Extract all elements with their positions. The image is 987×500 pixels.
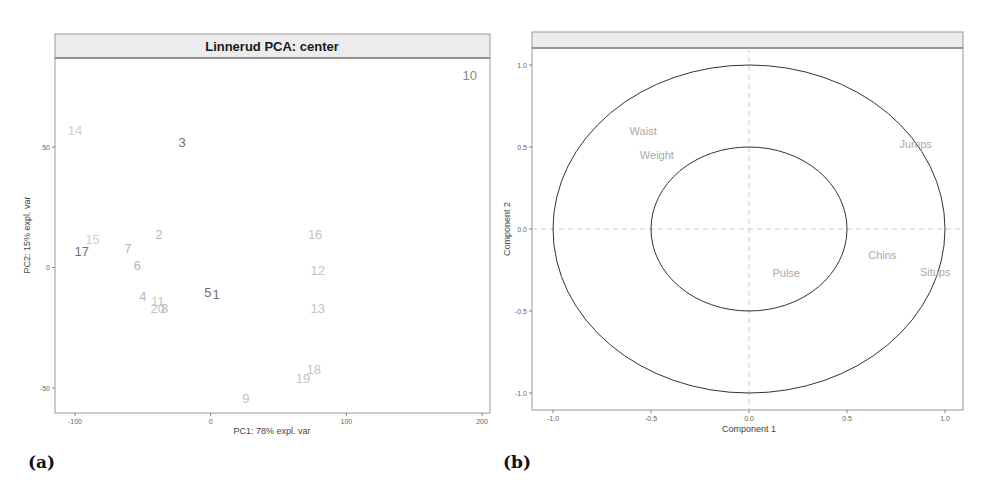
panel-a: Linnerud PCA: center -1000100200 -50050 … xyxy=(22,34,490,472)
observation-label-17: 17 xyxy=(75,244,89,259)
panel-a-x-tick-label: 100 xyxy=(340,418,352,425)
observation-label-13: 13 xyxy=(311,301,325,316)
panel-b-x-tick-label: -1.0 xyxy=(547,415,559,422)
observation-label-12: 12 xyxy=(311,263,325,278)
observation-label-20: 20 xyxy=(151,301,165,316)
variable-label-waist: Waist xyxy=(630,125,657,137)
panel-b-y-tick-label: 1.0 xyxy=(517,62,527,69)
panel-b-x-tick-label: 0.0 xyxy=(744,415,754,422)
panel-b-x-tick-label: -0.5 xyxy=(645,415,657,422)
panel-b-strip xyxy=(532,32,963,48)
panel-a-y-tick-label: 0 xyxy=(46,264,50,271)
observation-label-14: 14 xyxy=(68,123,82,138)
panel-a-letter: (a) xyxy=(28,452,55,472)
panel-b: -1.0-0.50.00.51.0 -1.0-0.50.00.51.0 Wais… xyxy=(502,32,963,472)
variable-label-jumps: Jumps xyxy=(899,138,932,150)
observation-label-10: 10 xyxy=(463,68,477,83)
observation-label-9: 9 xyxy=(242,391,249,406)
variable-label-weight: Weight xyxy=(640,149,674,161)
panel-b-y-tick-label: 0.0 xyxy=(517,226,527,233)
panel-b-x-tick-label: 0.5 xyxy=(842,415,852,422)
panel-a-x-axis-title: PC1: 78% expl. var xyxy=(233,426,310,436)
observation-label-19: 19 xyxy=(296,371,310,386)
observation-label-2: 2 xyxy=(155,227,162,242)
observation-label-3: 3 xyxy=(179,135,186,150)
panel-b-x-axis-title: Component 1 xyxy=(722,424,776,434)
variable-label-chins: Chins xyxy=(868,249,897,261)
panel-a-title: Linnerud PCA: center xyxy=(205,39,339,54)
observation-label-1: 1 xyxy=(212,287,219,302)
figure: Linnerud PCA: center -1000100200 -50050 … xyxy=(0,0,987,500)
panel-b-y-tick-label: 0.5 xyxy=(517,144,527,151)
panel-a-y-tick-label: -50 xyxy=(40,385,50,392)
panel-b-y-tick-label: -0.5 xyxy=(515,308,527,315)
panel-a-y-axis-title: PC2: 15% expl. var xyxy=(22,196,32,273)
variable-label-pulse: Pulse xyxy=(772,267,800,279)
panel-b-y-tick-label: -1.0 xyxy=(515,390,527,397)
observation-label-7: 7 xyxy=(124,241,131,256)
observation-label-6: 6 xyxy=(134,258,141,273)
panel-a-x-tick-label: 0 xyxy=(209,418,213,425)
panel-a-x-tick-label: 200 xyxy=(476,418,488,425)
panel-b-x-tick-label: 1.0 xyxy=(940,415,950,422)
panel-b-y-axis-title: Component 2 xyxy=(502,202,512,256)
panel-b-letter: (b) xyxy=(503,452,531,472)
variable-label-situps: Situps xyxy=(920,266,951,278)
observation-label-4: 4 xyxy=(139,289,146,304)
observation-label-5: 5 xyxy=(204,285,211,300)
panel-a-y-tick-label: 50 xyxy=(42,144,50,151)
observation-label-16: 16 xyxy=(308,227,322,242)
panel-a-plot-frame xyxy=(55,58,490,413)
panel-a-x-tick-label: -100 xyxy=(68,418,82,425)
